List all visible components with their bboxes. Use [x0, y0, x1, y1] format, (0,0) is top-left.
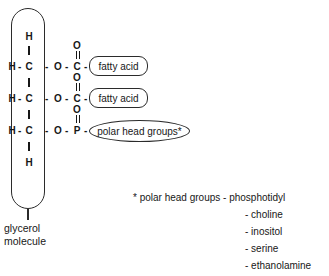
footnote-item-inositol: - inositol — [245, 227, 282, 237]
row2-carbonyl-carbon: C — [71, 94, 83, 104]
row3-phosphoryl-oxygen-group: O — [73, 105, 85, 125]
row1-bond-dash-1: - — [18, 62, 21, 72]
bond-c2-to-c3 — [28, 110, 29, 119]
glycerol-leader-line — [27, 209, 28, 220]
row2-carbonyl-oxygen-group: O — [73, 73, 85, 93]
row3-phosphoryl-oxygen: O — [73, 105, 81, 115]
row3-carbon: C — [23, 126, 35, 136]
row3-double-bond-bar-right — [79, 115, 80, 123]
footnote-heading: * polar head groups - phosphotidyl — [133, 193, 285, 203]
footnote-item-choline: - choline — [245, 210, 283, 220]
fatty-acid-label-1: fatty acid — [98, 61, 138, 72]
row3-phosphorus: P — [71, 126, 83, 136]
row1-left-hydrogen: H — [6, 62, 18, 72]
glycerol-label-line1: glycerol — [4, 222, 46, 235]
row3-ester-oxygen: O — [52, 126, 64, 136]
footnote-item-serine: - serine — [245, 244, 278, 254]
row3-double-bond-bar-left — [76, 115, 77, 123]
polar-head-groups-label: polar head groups* — [97, 126, 182, 137]
row2-left-hydrogen: H — [6, 94, 18, 104]
row3-left-hydrogen: H — [6, 126, 18, 136]
row1-double-bond-bar-right — [79, 51, 80, 59]
row1-ester-oxygen: O — [52, 62, 64, 72]
row3-bond-dash-1: - — [18, 126, 21, 136]
row2-ester-oxygen: O — [52, 94, 64, 104]
row2-bond-dash-1: - — [18, 94, 21, 104]
bond-c1-to-c2 — [28, 78, 29, 87]
fatty-acid-label-2: fatty acid — [98, 93, 138, 104]
row2-double-bond-bar-right — [79, 83, 80, 91]
row2-double-bond-bar-left — [76, 83, 77, 91]
row2-bond-dash-3: - — [65, 94, 68, 104]
row1-double-bond-bar-left — [76, 51, 77, 59]
row3-bond-dash-2: - — [45, 126, 48, 136]
row1-carbonyl-oxygen: O — [73, 41, 81, 51]
terminal-hydrogen-bottom: H — [23, 158, 35, 168]
bond-c3-to-bottom-h — [28, 142, 29, 151]
row2-carbonyl-oxygen: O — [73, 73, 81, 83]
fatty-acid-capsule-2[interactable]: fatty acid — [89, 88, 148, 108]
row3-bond-dash-3: - — [65, 126, 68, 136]
terminal-hydrogen-top: H — [23, 32, 35, 42]
row1-carbonyl-carbon: C — [71, 62, 83, 72]
phospholipid-diagram: glycerol molecule H H - C - O - C - O fa… — [0, 0, 329, 276]
row1-carbonyl-oxygen-group: O — [73, 41, 85, 61]
row2-bond-dash-2: - — [45, 94, 48, 104]
row1-bond-dash-4: - — [84, 62, 87, 72]
glycerol-label-line2: molecule — [4, 235, 46, 248]
row1-bond-dash-2: - — [45, 62, 48, 72]
row1-bond-dash-3: - — [65, 62, 68, 72]
row2-carbon: C — [23, 94, 35, 104]
fatty-acid-capsule-1[interactable]: fatty acid — [89, 56, 148, 76]
row3-bond-dash-4: - — [84, 126, 87, 136]
row2-bond-dash-4: - — [84, 94, 87, 104]
polar-head-groups-capsule[interactable]: polar head groups* — [89, 120, 190, 142]
footnote-item-ethanolamine: - ethanolamine — [245, 261, 311, 271]
row1-carbon: C — [23, 62, 35, 72]
bond-top-h-to-c1 — [28, 46, 29, 55]
glycerol-molecule-label: glycerol molecule — [4, 222, 46, 248]
